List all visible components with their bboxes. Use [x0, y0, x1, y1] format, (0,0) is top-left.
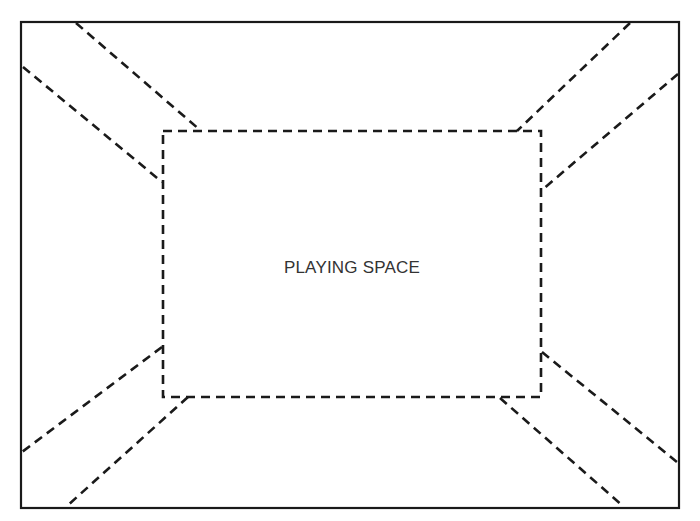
aisle-bottom-right-inner: [542, 352, 677, 462]
playing-space-label-text: PLAYING SPACE: [284, 258, 420, 278]
playing-space-label: PLAYING SPACE: [163, 131, 541, 397]
aisle-top-right-outer: [517, 23, 630, 131]
aisle-top-left-outer: [76, 23, 200, 130]
aisle-bottom-right-outer: [500, 398, 623, 506]
aisle-bottom-left-inner: [22, 347, 162, 452]
aisle-bottom-left-outer: [67, 397, 188, 506]
aisle-top-left-inner: [23, 67, 162, 182]
aisle-top-right-inner: [542, 74, 678, 190]
